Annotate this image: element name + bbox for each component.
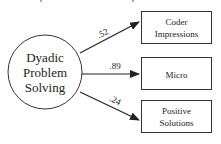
path-arrow-positive (80, 92, 139, 120)
latent-label-line-3: Solving (25, 80, 66, 95)
indicator-node-micro: Micro (142, 58, 212, 90)
latent-label-line-2: Problem (23, 65, 67, 80)
indicator-label-line-2: Impressions (155, 29, 199, 39)
path-arrow-coder (80, 22, 139, 53)
indicator-node-positive: Positive Solutions (142, 101, 212, 133)
latent-label-line-1: Dyadic (26, 50, 64, 65)
indicator-label: Micro (166, 70, 188, 80)
indicator-label-line-1: Coder (166, 17, 188, 27)
indicator-node-coder: Coder Impressions (142, 12, 212, 44)
cut-off-title (40, 0, 134, 2)
indicator-label-line-2: Solutions (159, 118, 194, 128)
loading-label-positive: .24 (108, 93, 123, 107)
loading-label-micro: .89 (109, 61, 121, 71)
path-diagram: Dyadic Problem Solving .52 .89 .24 Coder… (0, 0, 221, 144)
indicator-label-line-1: Positive (162, 106, 191, 116)
latent-factor-node: Dyadic Problem Solving (8, 35, 82, 109)
